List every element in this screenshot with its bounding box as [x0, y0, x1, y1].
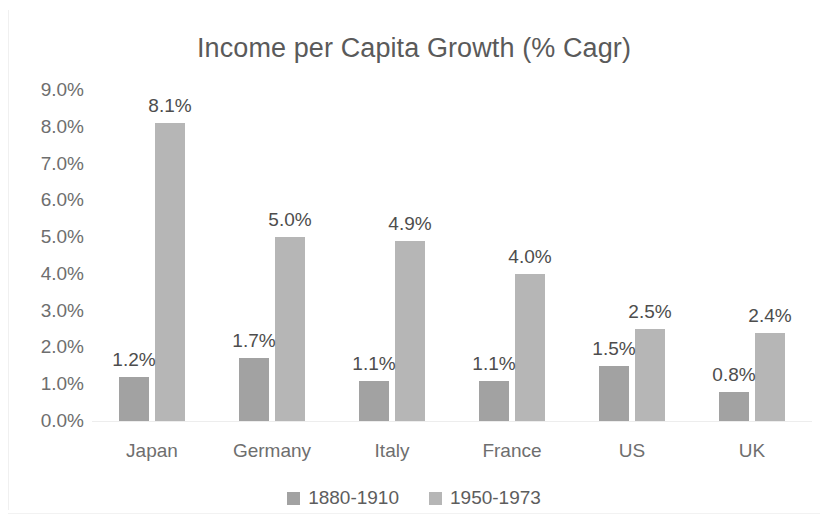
x-axis-category-label: Germany: [233, 440, 311, 462]
x-axis-category-label: Japan: [126, 440, 178, 462]
y-axis-tick-label: 2.0%: [22, 336, 84, 358]
x-axis-line: [92, 421, 812, 422]
x-axis-category-label: Italy: [375, 440, 410, 462]
legend-label: 1880-1910: [308, 487, 399, 509]
y-axis-tick-label: 4.0%: [22, 263, 84, 285]
y-axis-tick-label: 9.0%: [22, 79, 84, 101]
y-axis-tick-label: 6.0%: [22, 189, 84, 211]
bar-japan-1880-1910[interactable]: [119, 377, 149, 421]
chart-frame-left-border: [8, 10, 9, 510]
bar-group: [92, 90, 212, 421]
chart-legend: 1880-19101950-1973: [0, 487, 828, 509]
chart-title: Income per Capita Growth (% Cagr): [0, 33, 828, 64]
bar-value-label: 0.8%: [712, 364, 755, 386]
y-axis: 9.0%8.0%7.0%6.0%5.0%4.0%3.0%2.0%1.0%0.0%: [22, 0, 84, 527]
chart-container: Income per Capita Growth (% Cagr) 9.0%8.…: [0, 0, 828, 527]
bar-us-1950-1973[interactable]: [635, 329, 665, 421]
bar-value-label: 1.2%: [112, 349, 155, 371]
bar-value-label: 4.9%: [388, 213, 431, 235]
x-axis-category-label: US: [619, 440, 645, 462]
bar-italy-1950-1973[interactable]: [395, 241, 425, 421]
legend-label: 1950-1973: [450, 487, 541, 509]
y-axis-tick-label: 7.0%: [22, 153, 84, 175]
bar-japan-1950-1973[interactable]: [155, 123, 185, 421]
bar-uk-1950-1973[interactable]: [755, 333, 785, 421]
bar-value-label: 8.1%: [148, 95, 191, 117]
y-axis-tick-label: 3.0%: [22, 300, 84, 322]
bar-value-label: 1.7%: [232, 330, 275, 352]
y-axis-tick-label: 0.0%: [22, 410, 84, 432]
bar-italy-1880-1910[interactable]: [359, 381, 389, 421]
bar-value-label: 5.0%: [268, 209, 311, 231]
legend-swatch-icon: [287, 492, 300, 505]
bar-germany-1880-1910[interactable]: [239, 358, 269, 421]
plot-area: [92, 90, 812, 421]
bar-france-1880-1910[interactable]: [479, 381, 509, 421]
y-axis-tick-label: 8.0%: [22, 116, 84, 138]
bar-france-1950-1973[interactable]: [515, 274, 545, 421]
y-axis-tick-label: 1.0%: [22, 373, 84, 395]
legend-swatch-icon: [429, 492, 442, 505]
bar-value-label: 2.5%: [628, 301, 671, 323]
bar-value-label: 1.1%: [472, 353, 515, 375]
bar-group: [212, 90, 332, 421]
bar-value-label: 4.0%: [508, 246, 551, 268]
legend-item[interactable]: 1880-1910: [287, 487, 399, 509]
bar-value-label: 2.4%: [748, 305, 791, 327]
bar-value-label: 1.1%: [352, 353, 395, 375]
bar-uk-1880-1910[interactable]: [719, 392, 749, 421]
bar-germany-1950-1973[interactable]: [275, 237, 305, 421]
x-axis-category-label: UK: [739, 440, 765, 462]
y-axis-tick-label: 5.0%: [22, 226, 84, 248]
x-axis-category-label: France: [482, 440, 541, 462]
bar-value-label: 1.5%: [592, 338, 635, 360]
bar-us-1880-1910[interactable]: [599, 366, 629, 421]
bar-group: [572, 90, 692, 421]
legend-item[interactable]: 1950-1973: [429, 487, 541, 509]
chart-frame-bottom-border: [8, 513, 820, 514]
